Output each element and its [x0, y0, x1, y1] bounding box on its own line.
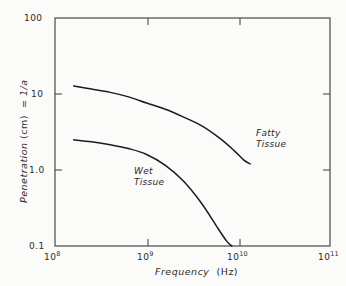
x-tick-mantissa: 10: [227, 252, 239, 262]
figure-container: 100 10 1.0 0.1 108 109 1010 1011 Penetra…: [0, 0, 346, 286]
series-label-wet-tissue: Wet Tissue: [134, 166, 164, 188]
x-tick-exponent: 11: [330, 250, 339, 258]
x-tick-exponent: 9: [149, 250, 153, 258]
y-axis-ticks-right: [323, 94, 330, 170]
x-tick-mantissa: 10: [44, 252, 56, 262]
series-curve-wet-tissue: [74, 140, 232, 246]
series-label-fatty-tissue: Fatty Tissue: [256, 128, 286, 150]
series-label-fatty-line2: Tissue: [256, 139, 286, 150]
y-tick-label-0-1: 0.1: [29, 241, 45, 251]
y-tick-label-1: 1.0: [29, 165, 45, 175]
y-axis-title: Penetration (cm) = 1/a: [18, 79, 29, 203]
x-tick-label-1e10: 1010: [227, 250, 248, 262]
y-tick-label-10: 10: [31, 89, 43, 99]
x-tick-mantissa: 10: [137, 252, 149, 262]
series-curve-fatty-tissue: [74, 86, 251, 164]
plot-frame: [55, 18, 330, 246]
y-axis-title-tail: = 1/a: [18, 79, 29, 108]
series-label-wet-line1: Wet: [134, 166, 164, 177]
log-log-plot: [0, 0, 346, 286]
x-tick-mantissa: 10: [318, 252, 330, 262]
x-tick-label-1e8: 108: [44, 250, 61, 262]
y-axis-title-unit: (cm): [18, 115, 29, 139]
x-tick-label-1e11: 1011: [318, 250, 339, 262]
x-tick-label-1e9: 109: [137, 250, 154, 262]
x-axis-title-main: Frequency: [155, 266, 209, 277]
series-label-fatty-line1: Fatty: [256, 128, 286, 139]
y-tick-label-100: 100: [24, 13, 42, 23]
x-axis-title-unit: (Hz): [217, 266, 239, 277]
x-tick-exponent: 10: [239, 250, 248, 258]
x-axis-title: Frequency (Hz): [155, 266, 238, 277]
series-label-wet-line2: Tissue: [134, 177, 164, 188]
y-axis-ticks: [55, 94, 62, 170]
x-axis-ticks-top: [148, 18, 240, 25]
y-axis-title-main: Penetration: [18, 142, 29, 203]
x-tick-exponent: 8: [56, 250, 60, 258]
